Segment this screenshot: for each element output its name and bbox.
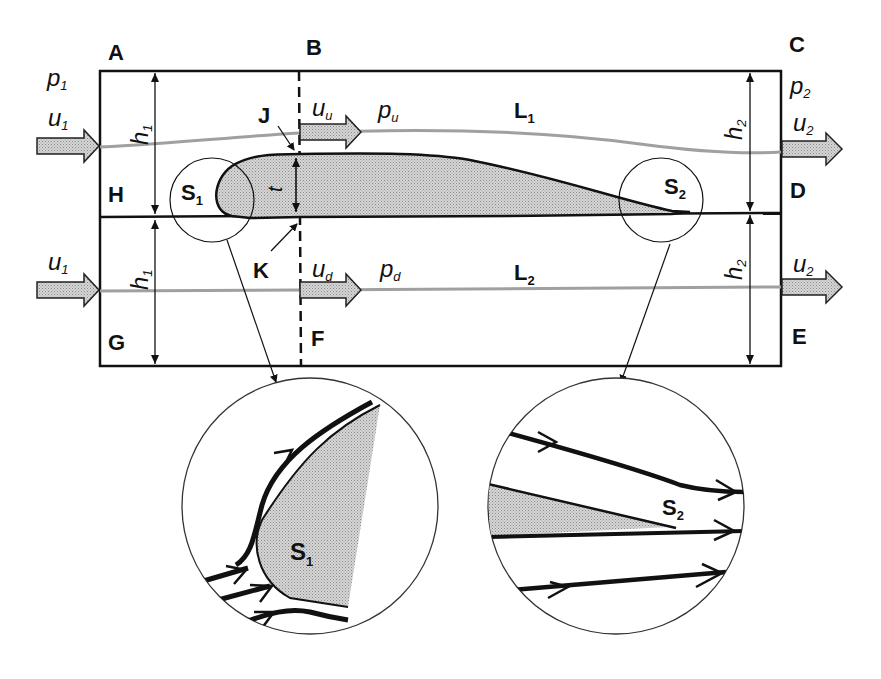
trailing-edge-detail: S2 [488,378,746,634]
s1-label: S1 [181,180,203,208]
label-a: A [108,40,124,65]
label-g: G [108,330,125,355]
label-f: F [311,326,324,351]
streamline-l2-label: L2 [514,260,535,288]
inlet-lower-flow-arrow [37,274,99,306]
dashed-line-bf [299,71,301,366]
streamline-L2 [100,287,781,291]
k-pointer-arrow [271,224,297,251]
label-j: J [258,103,270,128]
airfoil-control-volume-diagram: t A B C D E F G H J K p1 u1 u1 [0,0,881,679]
lower-pressure-label: pd [379,255,401,284]
j-pointer-arrow [278,126,294,150]
s2-zoom-pointer [621,244,670,382]
inlet-pressure-label: p1 [46,64,68,93]
label-d: D [790,178,806,203]
outlet-upper-velocity-label: u2 [793,109,814,138]
label-b: B [306,35,322,60]
h1-upper-label: h1 [126,124,155,145]
inlet-lower-velocity-label: u1 [48,248,69,277]
label-e: E [792,324,807,349]
h1-lower-label: h1 [126,269,155,290]
label-h: H [108,182,124,207]
inlet-upper-flow-arrow [37,130,99,162]
upper-pressure-label: pu [377,96,399,125]
outlet-pressure-label: p2 [789,72,811,101]
outlet-lower-velocity-label: u2 [793,250,814,279]
inlet-upper-velocity-label: u1 [48,104,69,133]
leading-edge-detail: S1 [182,378,438,634]
airfoil-body [216,154,690,218]
streamline-L1 [100,131,781,153]
streamline-l1-label: L1 [514,98,535,126]
h2-lower-label: h2 [720,259,749,280]
label-c: C [789,32,805,57]
h2-upper-label: h2 [720,119,749,140]
s2-label: S2 [664,174,686,202]
control-volume-box [100,71,781,366]
lower-velocity-label: ud [312,255,333,284]
label-k: K [253,258,269,283]
upper-velocity-label: uu [312,94,333,123]
